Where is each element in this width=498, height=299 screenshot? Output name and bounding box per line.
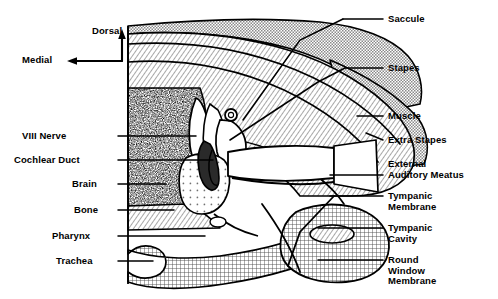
label-round-window-membrane: Round Window Membrane: [388, 255, 436, 287]
tissue-regions: [120, 19, 427, 288]
label-extra-stapes: Extra Stapes: [388, 135, 447, 146]
label-external-auditory-meatus: External Auditory Meatus: [388, 159, 464, 180]
label-cochlear-duct: Cochlear Duct: [14, 155, 80, 166]
label-trachea: Trachea: [56, 256, 93, 267]
label-bone: Bone: [74, 205, 98, 216]
label-saccule: Saccule: [388, 14, 425, 25]
anatomical-figure: Dorsal Medial VIII NerveCochlear DuctBra…: [0, 0, 498, 299]
label-muscle: Muscle: [388, 111, 421, 122]
label-tympanic-cavity: Tympanic Cavity: [388, 223, 432, 244]
label-stapes: Stapes: [388, 63, 420, 74]
label-viii-nerve: VIII Nerve: [22, 131, 66, 142]
label-tympanic-membrane: Tympanic Membrane: [388, 191, 436, 212]
region-external-auditory-meatus: [334, 140, 378, 192]
orientation-label-medial: Medial: [22, 55, 52, 66]
orientation-label-dorsal: Dorsal: [92, 26, 122, 37]
label-brain: Brain: [72, 179, 97, 190]
label-pharynx: Pharynx: [52, 231, 90, 242]
shape-hyoid: [210, 217, 226, 227]
region-tympanic-cavity: [228, 146, 334, 181]
